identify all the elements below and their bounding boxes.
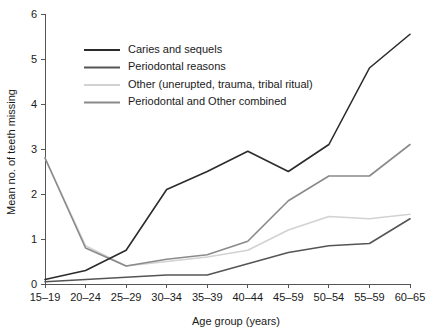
x-tick-label: 55–59 — [354, 291, 385, 303]
y-tick-label: 4 — [31, 98, 37, 110]
series-line-3 — [45, 145, 410, 267]
y-tick-label: 6 — [31, 8, 37, 20]
series-line-0 — [45, 34, 410, 279]
x-axis: 15–1920–2425–2930–3435–3940–4445–5950–54… — [30, 284, 426, 303]
y-tick-label: 5 — [31, 53, 37, 65]
series-line-1 — [45, 219, 410, 282]
y-axis: 0123456 — [31, 8, 45, 290]
x-tick-label: 25–29 — [111, 291, 142, 303]
x-tick-label: 30–34 — [151, 291, 182, 303]
x-tick-label: 60–65 — [395, 291, 426, 303]
chart-figure: 0123456 15–1920–2425–2930–3435–3940–4445… — [0, 0, 432, 331]
x-tick-label: 35–39 — [192, 291, 223, 303]
legend-label-1: Periodontal reasons — [128, 60, 226, 72]
y-tick-label: 0 — [31, 278, 37, 290]
y-tick-label: 1 — [31, 233, 37, 245]
x-tick-label: 20–24 — [70, 291, 101, 303]
x-tick-label: 40–44 — [232, 291, 263, 303]
legend-label-2: Other (unerupted, trauma, tribal ritual) — [128, 78, 313, 90]
legend-label-0: Caries and sequels — [128, 43, 223, 55]
series-line-2 — [45, 158, 410, 266]
y-axis-title: Mean no. of teeth missing — [5, 89, 17, 215]
x-axis-title: Age group (years) — [192, 315, 280, 327]
y-tick-label: 2 — [31, 188, 37, 200]
y-tick-label: 3 — [31, 143, 37, 155]
x-tick-label: 50–54 — [314, 291, 345, 303]
legend-label-3: Periodontal and Other combined — [128, 95, 286, 107]
line-chart-svg: 0123456 15–1920–2425–2930–3435–3940–4445… — [0, 0, 432, 331]
x-tick-label: 45–59 — [273, 291, 304, 303]
chart-legend: Caries and sequelsPeriodontal reasonsOth… — [84, 43, 313, 108]
series-lines — [45, 34, 410, 282]
x-tick-label: 15–19 — [30, 291, 61, 303]
